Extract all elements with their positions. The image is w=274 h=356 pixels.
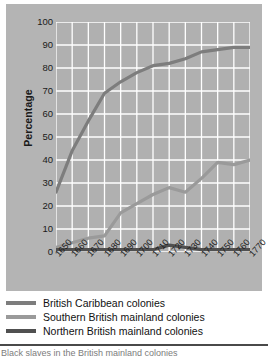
y-tick-label: 100: [9, 17, 53, 27]
y-axis-tick-labels: 1009080706050403020100: [6, 22, 53, 252]
chart-figure: Percentage 1009080706050403020100 165016…: [0, 0, 274, 356]
legend-item-label: Southern British mainland colonies: [43, 311, 205, 324]
plot-area: [56, 22, 250, 252]
legend-item[interactable]: Southern British mainland colonies: [6, 310, 268, 324]
series-line: [56, 160, 250, 247]
legend-item-label: Northern British mainland colonies: [43, 325, 203, 338]
y-tick-label: 30: [9, 178, 53, 188]
legend-swatch-icon: [6, 329, 36, 333]
y-tick-label: 40: [9, 155, 53, 165]
chart-legend: British Caribbean coloniesSouthern Briti…: [6, 296, 268, 338]
y-tick-label: 0: [9, 247, 53, 257]
x-tick-label: 1770: [247, 237, 268, 259]
footer-divider: [0, 344, 268, 346]
y-tick-label: 60: [9, 109, 53, 119]
y-tick-label: 70: [9, 86, 53, 96]
y-tick-label: 90: [9, 40, 53, 50]
y-tick-label: 10: [9, 224, 53, 234]
legend-item[interactable]: British Caribbean colonies: [6, 296, 268, 310]
series-line: [56, 47, 250, 192]
x-axis-tick-labels: 1650166016701680169017001710172017301740…: [56, 252, 256, 294]
y-tick-label: 50: [9, 132, 53, 142]
legend-item[interactable]: Northern British mainland colonies: [6, 324, 268, 338]
y-tick-label: 20: [9, 201, 53, 211]
legend-swatch-icon: [6, 315, 36, 319]
legend-swatch-icon: [6, 301, 36, 305]
chart-panel: Percentage 1009080706050403020100 165016…: [6, 4, 262, 291]
legend-item-label: British Caribbean colonies: [43, 297, 165, 310]
y-tick-label: 80: [9, 63, 53, 73]
series-lines: [56, 22, 250, 252]
footer-caption: Black slaves in the British mainland col…: [1, 348, 269, 356]
